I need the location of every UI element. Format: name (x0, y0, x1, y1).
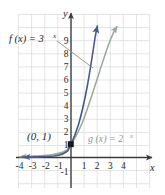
y-axis-label: y (62, 8, 68, 19)
y-tick-8: 8 (64, 49, 69, 59)
f-label-text: f (x) = 3 (9, 33, 44, 45)
g-function-label: g (x) = 2 x (88, 132, 133, 146)
graph-svg: -4 -3 -2 -1 1 2 3 4 -1 1 2 3 4 5 6 7 8 9… (0, 0, 165, 195)
x-tick-2: 2 (95, 161, 100, 171)
g-label-text: g (x) = 2 (88, 133, 123, 145)
y-tick-5: 5 (64, 88, 69, 98)
x-tick--4: -4 (16, 161, 24, 171)
point-label-0-1: (0, 1) (27, 130, 51, 143)
x-tick--2: -2 (42, 161, 50, 171)
y-tick-9: 9 (64, 36, 69, 46)
y-tick-7: 7 (64, 62, 69, 72)
x-tick-1: 1 (82, 161, 87, 171)
f-function-label: f (x) = 3 x (9, 32, 57, 46)
g-label-exponent: x (129, 132, 133, 139)
y-tick-3: 3 (64, 114, 69, 124)
f-label-leader-line (57, 41, 93, 68)
y-tick-2: 2 (64, 127, 69, 137)
y-tick-4: 4 (64, 101, 69, 111)
exponential-functions-graph: -4 -3 -2 -1 1 2 3 4 -1 1 2 3 4 5 6 7 8 9… (0, 0, 165, 195)
x-tick-3: 3 (108, 161, 113, 171)
x-axis-label: x (149, 162, 155, 173)
y-tick--1: -1 (61, 167, 69, 177)
x-tick--3: -3 (29, 161, 37, 171)
f-label-exponent: x (52, 32, 57, 40)
y-tick-6: 6 (64, 75, 69, 85)
point-marker-0-1 (68, 141, 74, 147)
x-tick-4: 4 (121, 161, 126, 171)
y-tick-1: 1 (64, 140, 69, 150)
